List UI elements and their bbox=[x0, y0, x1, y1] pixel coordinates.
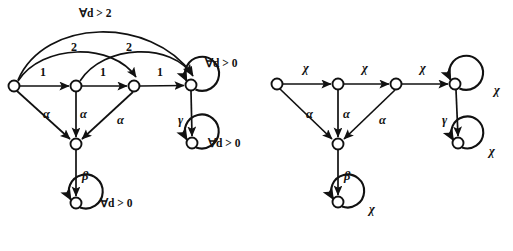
right-state-node-4[interactable] bbox=[333, 139, 344, 150]
left-label-gamma: γ bbox=[178, 114, 183, 127]
right-state-node-6[interactable] bbox=[453, 138, 464, 149]
left-label-1-first: 1 bbox=[40, 66, 46, 78]
left-label-alpha-third: α bbox=[117, 114, 124, 127]
right-label-alpha-second: α bbox=[343, 108, 350, 121]
left-state-node-1[interactable] bbox=[71, 81, 82, 92]
right-state-node-1[interactable] bbox=[333, 79, 344, 90]
left-label-forall-mid: ∀d > 0 bbox=[208, 138, 240, 150]
left-state-node-4[interactable] bbox=[71, 139, 82, 150]
right-label-gamma: γ bbox=[442, 114, 447, 127]
left-label-beta: β bbox=[82, 170, 88, 183]
left-state-node-3[interactable] bbox=[186, 80, 197, 91]
left-label-alpha-second: α bbox=[80, 108, 87, 121]
left-label-1-third: 1 bbox=[157, 66, 163, 78]
right-state-node-3[interactable] bbox=[450, 79, 461, 90]
right-label-alpha-third: α bbox=[379, 114, 386, 127]
right-label-chi-loop-mid: χ bbox=[489, 145, 495, 158]
left-label-2-first: 2 bbox=[71, 41, 77, 53]
right-label-chi-second: χ bbox=[362, 62, 368, 75]
right-label-beta: β bbox=[344, 170, 350, 183]
left-state-node-6[interactable] bbox=[187, 138, 198, 149]
right-edge-gamma bbox=[456, 90, 458, 136]
automata-figure: ∀d > 2 2 2 1 1 1 α α α β γ ∀d > 0 ∀d > 0… bbox=[0, 0, 513, 251]
left-label-forall-bottom: ∀d > 0 bbox=[100, 198, 132, 210]
right-label-chi-first: χ bbox=[303, 62, 309, 75]
right-state-node-2[interactable] bbox=[391, 79, 402, 90]
right-state-node-0[interactable] bbox=[272, 79, 283, 90]
left-state-node-5[interactable] bbox=[71, 198, 82, 209]
left-edge-alpha-third bbox=[82, 92, 133, 139]
left-label-2-second: 2 bbox=[126, 41, 132, 53]
right-state-node-5[interactable] bbox=[333, 197, 344, 208]
left-edge-1-third bbox=[140, 86, 184, 87]
left-state-node-0[interactable] bbox=[9, 81, 20, 92]
left-edge-gamma bbox=[191, 91, 192, 136]
left-label-1-second: 1 bbox=[100, 66, 106, 78]
left-label-forall-top: ∀d > 0 bbox=[205, 58, 237, 70]
left-label-forall-d-gt-2: ∀d > 2 bbox=[79, 8, 111, 20]
right-label-alpha-first: α bbox=[306, 108, 313, 121]
right-label-chi-loop-top: χ bbox=[494, 84, 500, 97]
right-label-chi-third: χ bbox=[420, 62, 426, 75]
automata-svg bbox=[0, 0, 513, 251]
right-label-chi-loop-bottom: χ bbox=[369, 203, 375, 216]
right-edge-alpha-third bbox=[344, 90, 395, 139]
left-label-alpha-first: α bbox=[43, 108, 50, 121]
left-state-node-2[interactable] bbox=[129, 81, 140, 92]
